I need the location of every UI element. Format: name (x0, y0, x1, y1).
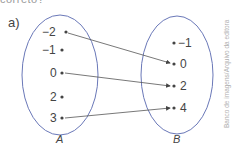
mapping-diagram (0, 0, 234, 145)
set-a-element: 3 (50, 111, 57, 125)
arrow-3-to-4 (65, 108, 170, 118)
set-a-element: 0 (50, 66, 57, 80)
arrow-neg2-to-0 (68, 33, 170, 63)
set-b-ellipse (141, 16, 213, 134)
image-credit: Banco de imagens/Arquivo da editora (223, 118, 230, 128)
set-a-element: −2 (42, 25, 56, 39)
set-b-element: 0 (180, 57, 187, 71)
set-a-element: −1 (42, 43, 56, 57)
set-b-element: 4 (180, 101, 187, 115)
set-a-element: 2 (50, 90, 57, 104)
set-a-ellipse (22, 15, 98, 135)
set-a-name: A (56, 133, 63, 145)
set-b-element: 2 (180, 79, 187, 93)
set-b-element: −1 (178, 36, 192, 50)
set-b-name: B (173, 133, 180, 145)
exercise-label: a) (8, 15, 20, 30)
arrow-0-to-2 (65, 73, 170, 86)
